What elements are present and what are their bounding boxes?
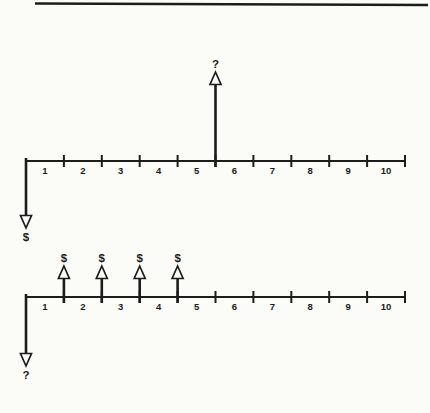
up-arrow-head: [96, 266, 107, 279]
up-arrow-head: [172, 266, 183, 279]
cash-flow-diagram: 12345678910?$12345678910$$$$?: [0, 0, 430, 413]
tick-label: 10: [381, 301, 392, 312]
tick-label: 9: [346, 301, 351, 312]
down-arrow-head: [21, 216, 32, 229]
tick-label: 6: [232, 301, 237, 312]
tick-label: 4: [156, 301, 162, 312]
tick-label: 9: [346, 165, 351, 176]
up-arrow-head: [134, 266, 145, 279]
tick-label: 7: [270, 165, 275, 176]
up-arrow-label: $: [61, 252, 68, 264]
tick-label: 8: [308, 165, 313, 176]
tick-label: 5: [194, 165, 200, 176]
tick-label: 1: [42, 301, 48, 312]
tick-label: 10: [381, 165, 392, 176]
tick-label: 1: [42, 165, 48, 176]
tick-label: 2: [80, 301, 85, 312]
tick-label: 7: [270, 301, 275, 312]
tick-label: 3: [118, 165, 123, 176]
tick-label: 6: [232, 165, 237, 176]
top-rule: [35, 4, 428, 6]
tick-label: 3: [118, 301, 123, 312]
figure-canvas: 12345678910?$12345678910$$$$?: [0, 0, 430, 413]
up-arrow-head: [58, 266, 69, 279]
down-arrow-label: $: [23, 231, 30, 243]
down-arrow-head: [21, 354, 32, 367]
up-arrow-label: $: [136, 252, 143, 264]
tick-label: 8: [308, 301, 313, 312]
tick-label: 2: [80, 165, 85, 176]
up-arrow-label: $: [99, 252, 106, 264]
up-arrow-head: [210, 72, 221, 85]
tick-label: 5: [194, 301, 200, 312]
up-arrow-label: ?: [212, 58, 219, 70]
tick-label: 4: [156, 165, 162, 176]
down-arrow-label: ?: [22, 369, 29, 381]
up-arrow-label: $: [174, 252, 181, 264]
